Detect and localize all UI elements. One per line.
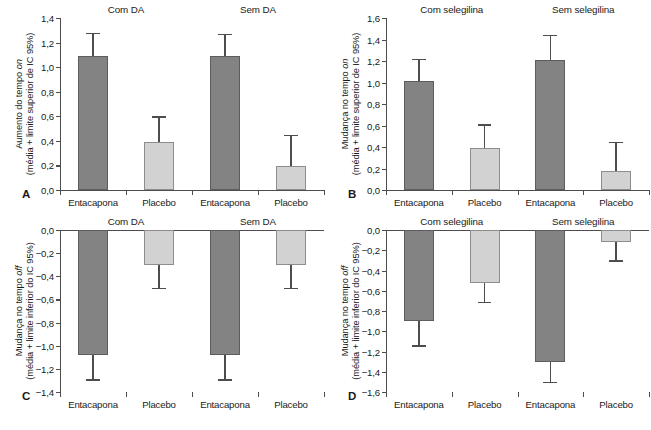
y-axis-tick bbox=[56, 92, 60, 93]
y-axis-tick-label: −0,2 bbox=[16, 248, 54, 259]
bar-placebo-3 bbox=[276, 230, 306, 265]
bar-placebo-1 bbox=[470, 148, 500, 190]
y-axis-tick bbox=[56, 116, 60, 117]
group-header-1: Sem DA bbox=[240, 216, 276, 227]
error-bar-cap-2 bbox=[218, 34, 232, 35]
error-bar-line-2 bbox=[550, 362, 551, 382]
error-bar-cap-0 bbox=[86, 379, 100, 380]
y-axis-tick-label: 0,8 bbox=[342, 99, 380, 110]
x-axis-category-separator-2 bbox=[583, 190, 584, 195]
y-axis-tick-label: −0,8 bbox=[342, 306, 380, 317]
y-axis-tick bbox=[382, 40, 386, 41]
error-bar-cap-0 bbox=[412, 345, 426, 346]
panel-letter-d: D bbox=[348, 390, 356, 402]
error-bar-cap-1 bbox=[478, 302, 492, 303]
group-header-1: Sem DA bbox=[240, 4, 276, 15]
error-bar-cap-0 bbox=[412, 59, 426, 60]
y-axis-tick bbox=[382, 104, 386, 105]
x-axis-category-label-2: Entacapona bbox=[526, 197, 576, 208]
y-axis-tick bbox=[56, 165, 60, 166]
panel-letter-b: B bbox=[348, 188, 356, 200]
y-axis-tick-label: 1,2 bbox=[342, 56, 380, 67]
y-axis-tick-label: −1,2 bbox=[16, 363, 54, 374]
y-axis-tick bbox=[382, 230, 386, 231]
y-axis-tick-label: 1,2 bbox=[16, 37, 54, 48]
y-axis-tick-label: −0,6 bbox=[16, 294, 54, 305]
bar-placebo-1 bbox=[144, 142, 174, 190]
y-axis-tick bbox=[56, 369, 60, 370]
y-axis-tick bbox=[56, 323, 60, 324]
bar-placebo-3 bbox=[276, 166, 306, 190]
y-axis-tick-label: 0,6 bbox=[342, 120, 380, 131]
y-axis-tick bbox=[382, 271, 386, 272]
y-axis-tick bbox=[382, 169, 386, 170]
y-axis-tick bbox=[382, 291, 386, 292]
group-header-0: Com selegilina bbox=[420, 216, 483, 227]
error-bar-cap-0 bbox=[86, 33, 100, 34]
y-axis-tick bbox=[382, 250, 386, 251]
bar-entacapona-2 bbox=[210, 230, 240, 355]
error-bar-line-0 bbox=[92, 355, 93, 379]
y-axis-tick-label: 0,4 bbox=[342, 142, 380, 153]
y-axis-line bbox=[60, 230, 61, 393]
error-bar-line-1 bbox=[484, 283, 485, 302]
group-header-1: Sem selegilina bbox=[552, 4, 614, 15]
panel-a: Aumento do tempo on(média + limite super… bbox=[0, 0, 326, 214]
y-axis-tick-label: −0,4 bbox=[16, 271, 54, 282]
x-axis-category-label-0: Entacapona bbox=[394, 399, 444, 410]
error-bar-line-3 bbox=[290, 135, 291, 166]
y-axis-tick bbox=[382, 311, 386, 312]
error-bar-cap-3 bbox=[284, 135, 298, 136]
error-bar-cap-3 bbox=[284, 288, 298, 289]
y-axis-line bbox=[60, 18, 61, 191]
y-axis-tick bbox=[56, 43, 60, 44]
bar-placebo-3 bbox=[601, 171, 631, 190]
x-axis-category-separator-0 bbox=[452, 392, 453, 397]
group-header-0: Com selegilina bbox=[420, 4, 483, 15]
x-axis-category-separator-0 bbox=[452, 190, 453, 195]
error-bar-line-2 bbox=[550, 35, 551, 60]
x-axis-category-label-0: Entacapona bbox=[394, 197, 444, 208]
x-axis-category-separator-1 bbox=[518, 190, 519, 195]
bar-entacapona-2 bbox=[535, 60, 565, 190]
y-axis-tick-label: 1,4 bbox=[342, 34, 380, 45]
y-axis-tick-label: −1,2 bbox=[342, 346, 380, 357]
y-axis-tick-label: −1,0 bbox=[342, 326, 380, 337]
y-axis-tick bbox=[382, 61, 386, 62]
x-axis-start-tick bbox=[60, 190, 61, 195]
figure-panel-grid: Aumento do tempo on(média + limite super… bbox=[0, 0, 651, 430]
y-axis-tick bbox=[56, 18, 60, 19]
error-bar-line-0 bbox=[418, 321, 419, 345]
y-axis-tick-label: 1,0 bbox=[16, 62, 54, 73]
panel-letter-c: C bbox=[22, 390, 30, 402]
y-axis-tick bbox=[382, 126, 386, 127]
y-axis-tick-label: −0,4 bbox=[342, 265, 380, 276]
error-bar-cap-3 bbox=[609, 142, 623, 143]
bar-entacapona-2 bbox=[210, 56, 240, 190]
x-axis-category-label-2: Entacapona bbox=[526, 399, 576, 410]
x-axis-category-label-3: Placebo bbox=[274, 197, 308, 208]
error-bar-cap-3 bbox=[609, 260, 623, 261]
x-axis-category-label-3: Placebo bbox=[599, 197, 633, 208]
y-axis-tick bbox=[56, 276, 60, 277]
error-bar-line-3 bbox=[290, 265, 291, 288]
x-axis-category-separator-0 bbox=[126, 392, 127, 397]
y-axis-tick-label: 0,0 bbox=[342, 225, 380, 236]
y-axis-tick-label: −1,4 bbox=[342, 366, 380, 377]
error-bar-line-3 bbox=[615, 242, 616, 260]
y-axis-tick-label: 1,6 bbox=[342, 13, 380, 24]
group-header-0: Com DA bbox=[108, 4, 144, 15]
y-axis-tick-label: 1,4 bbox=[16, 13, 54, 24]
y-axis-tick-label: −0,6 bbox=[342, 285, 380, 296]
x-axis-category-label-0: Entacapona bbox=[68, 399, 118, 410]
y-axis-tick-label: 0,2 bbox=[16, 160, 54, 171]
y-axis-tick bbox=[56, 346, 60, 347]
bar-entacapona-0 bbox=[78, 56, 108, 190]
error-bar-cap-1 bbox=[478, 124, 492, 125]
error-bar-line-0 bbox=[418, 59, 419, 82]
y-axis-tick bbox=[382, 147, 386, 148]
error-bar-line-1 bbox=[158, 116, 159, 142]
group-header-1: Sem selegilina bbox=[552, 216, 614, 227]
x-axis-end-tick bbox=[649, 190, 650, 195]
y-axis-tick bbox=[56, 253, 60, 254]
